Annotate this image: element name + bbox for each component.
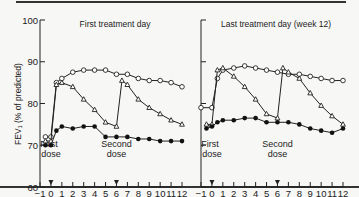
x-tick-label: 2 xyxy=(231,188,236,197)
x-tick-label: 0 xyxy=(48,188,53,197)
open-triangle-marker xyxy=(341,122,346,126)
open-circle-marker xyxy=(231,66,236,71)
panel-title: Last treatment day (week 12) xyxy=(221,19,331,29)
filled-circle-marker xyxy=(70,126,75,131)
open-triangle-marker xyxy=(215,68,220,72)
x-tick-label: 9 xyxy=(147,188,152,197)
x-tick-label: 12 xyxy=(177,188,188,197)
filled-circle-marker xyxy=(341,126,346,131)
filled-circle-marker xyxy=(43,143,48,148)
filled-circle-marker xyxy=(103,135,108,140)
open-triangle-marker xyxy=(281,65,286,69)
x-tick-label: 3 xyxy=(242,188,247,197)
panel-title: First treatment day xyxy=(80,19,152,29)
series-filled-circle xyxy=(204,116,345,135)
open-circle-marker xyxy=(81,68,86,73)
x-tick-label: 10 xyxy=(316,188,327,197)
open-triangle-marker xyxy=(59,80,64,84)
second-dose-label: Second xyxy=(262,139,293,149)
filled-circle-marker xyxy=(330,130,335,135)
y-axis-label: FEV₁ (% of predicted) xyxy=(13,63,23,145)
first-dose-label: First xyxy=(201,139,219,149)
open-circle-marker xyxy=(158,78,163,83)
x-tick-label: 8 xyxy=(297,188,302,197)
open-circle-marker xyxy=(215,76,220,81)
open-circle-marker xyxy=(308,74,313,79)
fev1-chart: FEV₁ (% of predicted)60708090100−1012345… xyxy=(0,0,359,197)
x-tick-label: −1 xyxy=(196,188,207,197)
filled-circle-marker xyxy=(125,135,130,140)
open-circle-marker xyxy=(180,85,185,90)
filled-circle-marker xyxy=(231,118,236,123)
open-triangle-marker xyxy=(231,74,236,78)
open-triangle-marker xyxy=(204,122,209,126)
y-tick-label: 90 xyxy=(27,56,38,67)
x-tick-label: 6 xyxy=(275,188,280,197)
filled-circle-marker xyxy=(147,137,152,142)
open-circle-marker xyxy=(199,105,204,110)
filled-circle-marker xyxy=(114,135,119,140)
filled-circle-marker xyxy=(210,124,215,129)
y-tick-label: 70 xyxy=(27,140,38,151)
open-circle-marker xyxy=(275,70,280,75)
x-tick-label: 1 xyxy=(220,188,225,197)
first-dose-label: dose xyxy=(41,149,61,159)
open-triangle-marker xyxy=(147,105,152,109)
filled-circle-marker xyxy=(92,124,97,129)
open-triangle-marker xyxy=(275,116,280,120)
second-dose-label: dose xyxy=(107,149,127,159)
second-dose-arrow-icon xyxy=(275,180,280,185)
series-open-triangle xyxy=(204,65,345,126)
x-tick-label: 3 xyxy=(81,188,86,197)
second-dose-arrow-icon xyxy=(114,180,119,185)
x-tick-label: 4 xyxy=(92,188,97,197)
open-circle-marker xyxy=(125,72,130,77)
x-tick-label: 2 xyxy=(70,188,75,197)
open-circle-marker xyxy=(169,80,174,85)
filled-circle-marker xyxy=(81,124,86,129)
x-tick-label: 4 xyxy=(253,188,258,197)
y-tick-label: 100 xyxy=(22,15,38,26)
open-triangle-marker xyxy=(158,111,163,115)
open-circle-marker xyxy=(319,76,324,81)
x-tick-label: 11 xyxy=(166,188,176,197)
filled-circle-marker xyxy=(308,126,313,131)
open-triangle-marker xyxy=(114,124,119,128)
x-tick-label: 7 xyxy=(286,188,291,197)
filled-circle-marker xyxy=(169,139,174,144)
open-circle-marker xyxy=(70,70,75,75)
open-circle-marker xyxy=(136,76,141,81)
x-tick-label: 5 xyxy=(103,188,108,197)
filled-circle-marker xyxy=(264,120,269,125)
second-dose-label: dose xyxy=(268,149,288,159)
first-dose-arrow-icon xyxy=(48,180,53,185)
filled-circle-marker xyxy=(215,120,220,125)
open-triangle-marker xyxy=(180,122,185,126)
series-open-triangle xyxy=(43,78,184,143)
filled-circle-marker xyxy=(158,139,163,144)
open-triangle-marker xyxy=(220,65,225,69)
open-circle-marker xyxy=(253,66,258,71)
second-dose-label: Second xyxy=(101,139,132,149)
filled-circle-marker xyxy=(253,116,258,121)
first-dose-label: dose xyxy=(202,149,222,159)
filled-circle-marker xyxy=(204,126,209,131)
open-circle-marker xyxy=(103,68,108,73)
series-open-circle xyxy=(199,64,346,110)
y-tick-label: 80 xyxy=(27,98,38,109)
filled-circle-marker xyxy=(286,120,291,125)
open-triangle-marker xyxy=(70,84,75,88)
filled-circle-marker xyxy=(221,118,226,123)
x-tick-label: 1 xyxy=(59,188,64,197)
filled-circle-marker xyxy=(275,120,280,125)
open-circle-marker xyxy=(264,68,269,73)
open-circle-marker xyxy=(114,72,119,77)
x-tick-label: 7 xyxy=(125,188,130,197)
filled-circle-marker xyxy=(297,122,302,127)
filled-circle-marker xyxy=(136,137,141,142)
open-triangle-marker xyxy=(125,82,130,86)
filled-circle-marker xyxy=(54,128,59,133)
x-tick-label: 6 xyxy=(114,188,119,197)
open-circle-marker xyxy=(242,64,247,69)
x-tick-label: 12 xyxy=(338,188,349,197)
